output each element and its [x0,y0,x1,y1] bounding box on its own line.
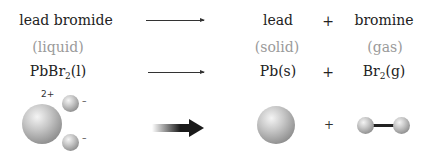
reactant-state: (liquid) [32,40,83,54]
product2-formula: Br2(g) [363,64,406,78]
word-plus-sign: + [322,14,334,28]
bromide-ion-charge-bottom: – [82,134,87,143]
lead-atom-sphere [257,106,295,144]
reactant-formula-state: (l) [71,63,86,79]
product1-formula: Pb(s) [260,64,297,78]
bromine-atom-right [393,117,410,134]
formula-equation-arrow [148,72,204,73]
product2-name: bromine [354,13,413,27]
product2-state: (gas) [367,40,402,54]
reactant-name: lead bromide [19,13,113,27]
lead-ion-charge: 2+ [41,90,54,99]
bromide-ion-sphere-top [62,95,79,112]
bromide-ion-sphere-bottom [62,134,79,151]
reactant-formula: PbBr2(l) [30,64,87,78]
bromide-ion-charge-top: – [82,97,87,106]
gradient-arrow-icon [152,118,204,138]
product1-state: (solid) [255,40,299,54]
lead-ion-sphere [22,104,62,144]
product2-formula-main: Br [363,63,380,79]
reactant-formula-main: PbBr [30,63,65,79]
model-plus-sign: + [324,119,334,131]
formula-plus-sign: + [322,65,334,79]
product1-name: lead [263,13,293,27]
word-equation-arrow [146,20,204,21]
product2-formula-state: (g) [385,63,405,79]
bromine-atom-left [357,117,374,134]
reaction-arrow-thick [152,118,204,138]
